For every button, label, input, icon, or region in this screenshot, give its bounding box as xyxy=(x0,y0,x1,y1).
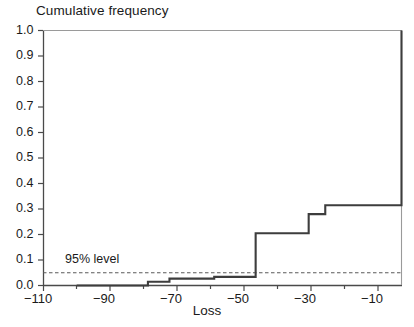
plot-frame xyxy=(43,30,402,286)
chart-figure: Cumulative frequency 1.0 0.9 0.8 0.7 0.6… xyxy=(0,0,414,327)
plot-canvas xyxy=(0,0,414,327)
step-curve-cumulative-frequency xyxy=(77,31,402,286)
y-axis-ticks xyxy=(38,31,43,286)
